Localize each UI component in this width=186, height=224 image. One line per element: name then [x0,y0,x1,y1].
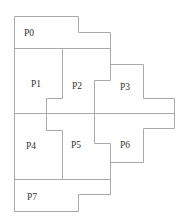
label-p5: P5 [71,140,81,150]
divider-p2-p3-p5-p6 [95,49,111,195]
label-p1: P1 [31,79,41,89]
partition-diagram: P0 P1 P2 P3 P4 P5 P6 P7 [0,0,186,224]
label-p2: P2 [72,81,82,91]
label-p6: P6 [120,140,130,150]
label-p0: P0 [24,28,34,38]
label-p4: P4 [26,141,36,151]
label-p7: P7 [27,192,37,202]
label-p3: P3 [120,82,130,92]
